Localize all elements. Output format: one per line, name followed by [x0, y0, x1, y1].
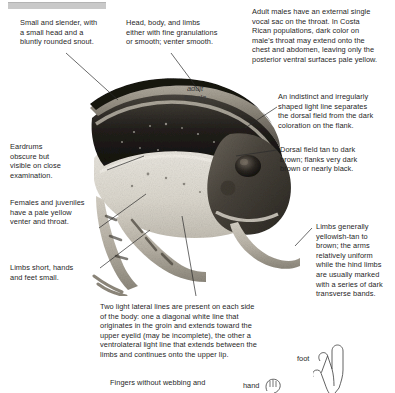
callout-eardrums: Eardrums obscure but visible on close ex…: [10, 142, 92, 180]
callout-fingers: Fingers without webbing and: [110, 378, 240, 388]
callout-lateral-lines: Two light lateral lines are present on e…: [100, 302, 292, 360]
foot-figure-label: foot: [297, 354, 309, 363]
hand-figure: [264, 377, 282, 393]
top-rule: [8, 2, 106, 9]
callout-snout: Small and slender, with a small head and…: [20, 18, 124, 47]
figure-page: Small and slender, with a small head and…: [0, 0, 395, 393]
foot-figure: [313, 342, 357, 393]
callout-skin-texture: Head, body, and limbs either with fine g…: [126, 18, 236, 47]
callout-light-line: An indistinct and irregularly shaped lig…: [278, 92, 394, 130]
callout-limbs-short: Limbs short, hands and feet small.: [10, 263, 102, 282]
hand-figure-label: hand: [243, 381, 259, 390]
callout-vocal-sac: Adult males have an external single voca…: [252, 7, 392, 65]
callout-limb-color: Limbs generally yellowish-tan to brown; …: [316, 222, 390, 299]
photo-caption-adult-female: adult female: [172, 84, 218, 103]
callout-venter-throat: Females and juveniles have a pale yellow…: [10, 198, 106, 227]
callout-dorsal-field: Dorsal field tan to dark brown; flanks v…: [280, 145, 392, 174]
